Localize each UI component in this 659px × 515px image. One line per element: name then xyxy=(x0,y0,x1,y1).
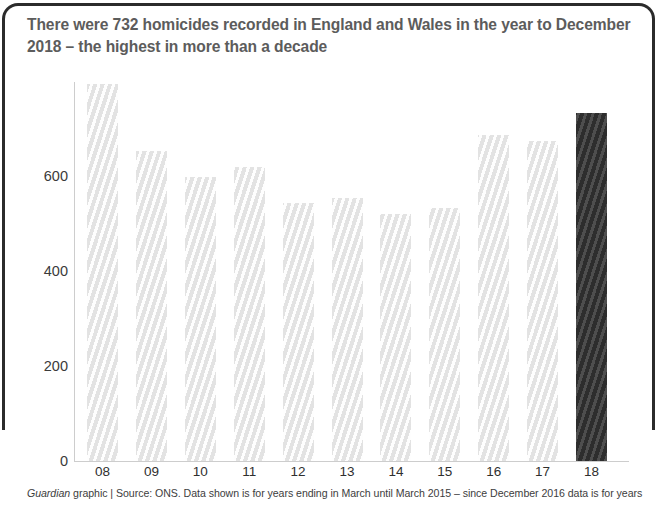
y-axis-line xyxy=(74,82,75,461)
x-tick-label-15: 15 xyxy=(437,464,452,479)
y-tick-label: 400 xyxy=(18,263,68,279)
y-tick-label: 600 xyxy=(18,168,68,184)
source-credit-guardian: Guardian xyxy=(27,487,70,499)
bar-09 xyxy=(136,151,167,461)
bar-16 xyxy=(478,135,509,461)
bar-14 xyxy=(380,214,411,461)
y-tick-label: 0 xyxy=(18,453,68,469)
bar-12 xyxy=(283,203,314,461)
x-tick-label-11: 11 xyxy=(242,464,256,479)
x-tick-label-16: 16 xyxy=(486,464,501,479)
bar-15 xyxy=(429,208,460,461)
bar-13 xyxy=(332,198,363,461)
x-tick-label-17: 17 xyxy=(535,464,550,479)
source-credit-rest: graphic | Source: ONS. Data shown is for… xyxy=(70,487,642,499)
x-axis-line xyxy=(74,461,629,462)
bar-18 xyxy=(576,113,607,461)
bar-17 xyxy=(527,141,558,461)
chart-source-note: Guardian graphic | Source: ONS. Data sho… xyxy=(27,487,652,499)
x-tick-label-08: 08 xyxy=(95,464,110,479)
bar-11 xyxy=(234,167,265,461)
x-tick-label-09: 09 xyxy=(144,464,159,479)
x-tick-label-13: 13 xyxy=(339,464,354,479)
bar-08 xyxy=(87,84,118,461)
x-tick-label-14: 14 xyxy=(388,464,403,479)
y-tick-label: 200 xyxy=(18,358,68,374)
plot-area: 0200400600 0809101112131415161718 xyxy=(0,0,659,480)
x-tick-label-12: 12 xyxy=(291,464,306,479)
x-tick-label-18: 18 xyxy=(584,464,599,479)
chart-figure: There were 732 homicides recorded in Eng… xyxy=(0,0,659,515)
x-tick-label-10: 10 xyxy=(193,464,208,479)
bar-10 xyxy=(185,177,216,461)
